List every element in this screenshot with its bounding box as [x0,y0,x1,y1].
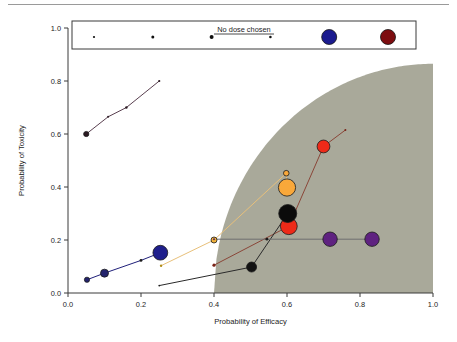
y-tick-label: 0.8 [51,77,61,86]
data-point-purple-series-1 [266,238,269,241]
x-axis-ticks [68,293,433,297]
data-point-darkred-series-0 [212,264,215,267]
y-tick-label: 0.6 [51,130,61,139]
data-point-upper-curve-3 [158,80,160,82]
data-point-upper-curve-2 [125,106,127,108]
x-tick-label: 0.4 [209,300,219,309]
data-point-blue-series-2 [140,259,143,262]
legend-swatch-dose-5 [322,30,337,45]
data-point-purple-series-0 [213,238,215,240]
x-axis-title: Probability of Efficacy [214,317,287,326]
x-tick-label: 0.2 [136,300,146,309]
x-tick-label: 0.0 [63,300,73,309]
probability-scatter-plot: 0.00.20.40.60.81.0 0.00.20.40.60.81.0 Pr… [0,0,457,342]
series-line-upper-curve [86,81,159,134]
legend-title-text: No dose chosen [217,25,270,34]
y-axis-title: Probability of Toxicity [17,125,26,196]
data-point-black-series-1 [247,262,257,272]
data-point-black-series-2 [279,205,297,223]
data-point-purple-series-2 [323,232,337,246]
x-tick-label: 0.8 [355,300,365,309]
data-point-upper-curve-0 [84,131,89,136]
y-tick-label: 0.4 [51,183,61,192]
data-point-upper-curve-1 [107,116,109,118]
chart-root: 0.00.20.40.60.81.0 0.00.20.40.60.81.0 Pr… [0,0,457,342]
legend-swatch-dose-6 [381,30,396,45]
x-axis-tick-labels: 0.00.20.40.60.81.0 [63,300,438,309]
legend-swatch-dose-2 [151,36,154,39]
data-point-darkred-series-2 [317,140,330,153]
x-tick-label: 1.0 [428,300,438,309]
shaded-acceptable-region [214,64,433,293]
x-tick-label: 0.6 [282,300,292,309]
data-point-black-series-0 [158,285,160,287]
data-point-blue-series-3 [153,245,168,260]
legend-swatch-dose-3 [210,35,214,39]
y-axis-ticks [64,28,68,293]
data-point-blue-series-1 [101,269,109,277]
data-point-orange-series-2 [283,170,289,176]
legend-swatch-dose-1 [93,36,95,38]
y-axis-tick-labels: 0.00.20.40.60.81.0 [51,24,61,298]
legend-box: No dose chosen [72,21,416,49]
legend-swatch-dose-4 [269,36,272,39]
y-tick-label: 1.0 [51,24,61,33]
data-point-orange-series-3 [278,179,295,196]
data-point-blue-series-0 [84,277,89,282]
data-point-darkred-series-3 [344,129,346,131]
data-point-purple-series-3 [365,232,379,246]
series-line-blue-series [87,253,160,280]
y-tick-label: 0.2 [51,236,61,245]
y-tick-label: 0.0 [51,289,61,298]
data-point-orange-series-0 [160,265,162,267]
